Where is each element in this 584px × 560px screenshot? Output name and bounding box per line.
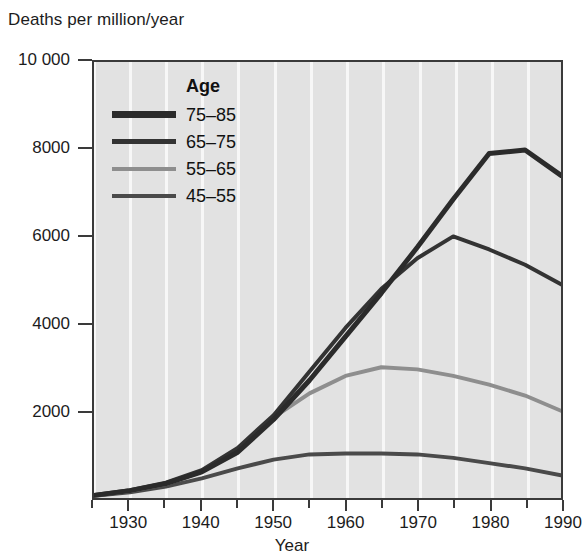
- x-tick-mark-1985: [526, 500, 528, 508]
- series-line-55-65: [94, 367, 561, 495]
- legend-label: 75–85: [186, 105, 236, 125]
- legend-swatch-icon: [112, 139, 176, 144]
- y-tick-label-10000: 10 000: [18, 51, 70, 68]
- x-tick-label-1950: 1950: [254, 513, 292, 532]
- y-tick-mark-4000: [78, 323, 92, 325]
- x-tick-mark-1950: [272, 500, 274, 511]
- series-line-65-75: [94, 236, 561, 495]
- x-tick-label-1940: 1940: [182, 513, 220, 532]
- x-tick-label-1960: 1960: [327, 513, 365, 532]
- legend-swatch-icon: [112, 111, 176, 118]
- legend-entries: 75–8565–7555–6545–55: [112, 101, 282, 209]
- x-tick-mark-1980: [490, 500, 492, 511]
- x-tick-mark-1935: [163, 500, 165, 508]
- y-axis-title: Deaths per million/year: [8, 10, 184, 30]
- x-tick-mark-1945: [236, 500, 238, 508]
- y-tick-mark-8000: [78, 147, 92, 149]
- legend: Age 75–8565–7555–6545–55: [112, 76, 282, 209]
- x-tick-mark-1990: [562, 500, 564, 511]
- legend-item-55-65: 55–65: [112, 155, 282, 182]
- x-tick-mark-1965: [381, 500, 383, 508]
- x-axis-title: Year: [0, 536, 584, 556]
- y-tick-label-2000: 2000: [32, 403, 70, 420]
- x-tick-label-1970: 1970: [399, 513, 437, 532]
- series-line-45-55: [94, 454, 561, 496]
- x-tick-mark-1975: [453, 500, 455, 508]
- legend-item-75-85: 75–85: [112, 101, 282, 128]
- legend-title: Age: [186, 76, 282, 96]
- y-tick-label-8000: 8000: [32, 139, 70, 156]
- x-tick-mark-1955: [308, 500, 310, 508]
- x-tick-mark-1960: [345, 500, 347, 511]
- y-tick-mark-10000: [78, 59, 92, 61]
- legend-item-45-55: 45–55: [112, 182, 282, 209]
- x-tick-mark-1970: [417, 500, 419, 511]
- y-tick-mark-6000: [78, 235, 92, 237]
- legend-item-65-75: 65–75: [112, 128, 282, 155]
- x-tick-label-1990: 1990: [544, 513, 582, 532]
- legend-label: 45–55: [186, 186, 236, 206]
- x-tick-mark-1930: [127, 500, 129, 511]
- y-tick-label-6000: 6000: [32, 227, 70, 244]
- legend-label: 55–65: [186, 159, 236, 179]
- x-tick-label-1980: 1980: [472, 513, 510, 532]
- y-tick-mark-2000: [78, 411, 92, 413]
- legend-swatch-icon: [112, 194, 176, 198]
- x-tick-label-1930: 1930: [109, 513, 147, 532]
- y-tick-label-4000: 4000: [32, 315, 70, 332]
- x-tick-mark-1925: [91, 500, 93, 508]
- line-chart: Deaths per million/year 10 0008000600040…: [0, 0, 584, 560]
- legend-swatch-icon: [112, 167, 176, 171]
- legend-label: 65–75: [186, 132, 236, 152]
- x-tick-mark-1940: [200, 500, 202, 511]
